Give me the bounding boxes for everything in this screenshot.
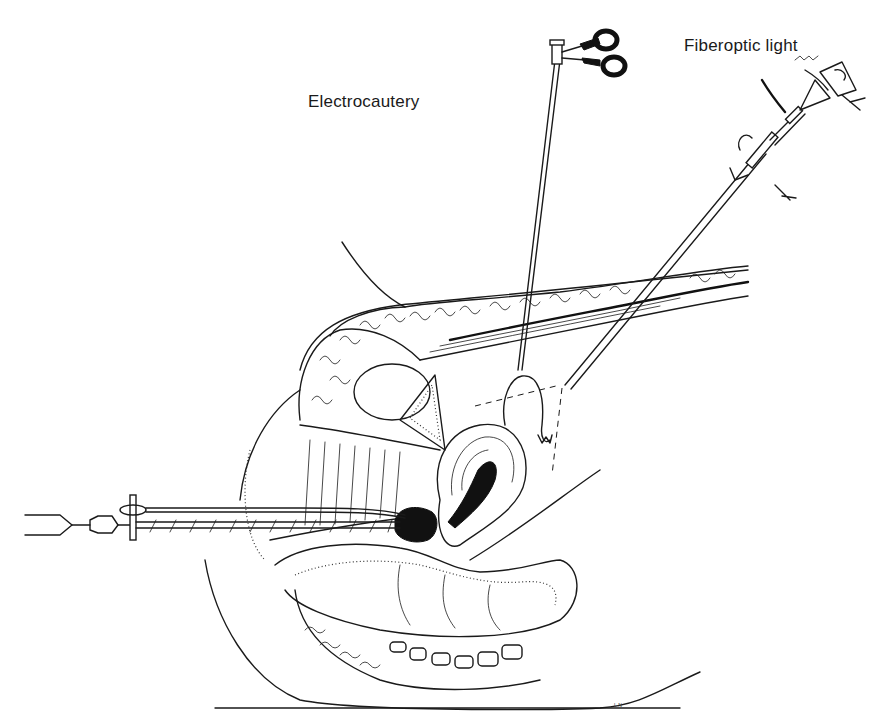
retropubic-tissue	[400, 375, 445, 450]
illustration-canvas: Electrocautery Fiberoptic light L.N	[0, 0, 870, 723]
cervical-cannula-tip	[395, 507, 437, 541]
body-contour-lower	[205, 560, 700, 710]
electrocautery-label: Electrocautery	[308, 92, 419, 112]
peritoneal-boundary-vertical	[552, 388, 562, 475]
vaginal-wall-upper	[300, 425, 440, 450]
uterine-manipulator	[25, 495, 405, 540]
sacral-fat	[305, 627, 380, 668]
rectum-outline	[275, 544, 577, 636]
abdominal-wall-outer	[342, 242, 748, 307]
muscle-fiber-2	[440, 298, 680, 346]
scissor-handle-icon	[580, 31, 625, 75]
bladder	[354, 364, 430, 420]
labia-contour	[240, 390, 300, 500]
fiberoptic-light-label: Fiberoptic light	[684, 36, 798, 56]
bowel-folds	[398, 565, 500, 630]
sacral-vertebrae	[390, 642, 522, 668]
perineal-stipple	[245, 450, 265, 560]
uterine-cavity-dye	[448, 462, 496, 528]
peritoneal-boundary	[475, 385, 560, 406]
sigmoid-loop	[295, 590, 540, 689]
retropubic-tissue-stipple	[410, 385, 440, 440]
abdominal-wall-band-bottom	[420, 296, 748, 360]
fiberoptic-cable	[762, 80, 785, 112]
fascia-dark-band	[450, 282, 748, 340]
fat-lobules	[312, 270, 735, 404]
laparoscopy-illustration	[0, 0, 870, 723]
laparoscope	[565, 80, 830, 389]
artist-signature: L.N	[614, 702, 622, 708]
